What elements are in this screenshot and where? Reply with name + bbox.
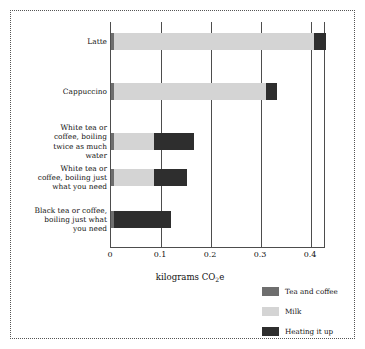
bar-segment (154, 133, 194, 150)
bar-segment (114, 83, 267, 100)
y-axis-label-line: Black tea or coffee, (7, 206, 107, 215)
x-tick-label: 0.2 (204, 250, 217, 259)
bar-segment (114, 33, 314, 50)
bar-segment (114, 211, 172, 228)
y-axis-label-line: coffee, boiling (7, 132, 107, 141)
legend-label: Heating it up (285, 327, 333, 336)
x-tick-label: 0.1 (154, 250, 167, 259)
legend-item[interactable]: Heating it up (262, 323, 360, 340)
legend-item[interactable]: Tea and coffee (262, 283, 360, 300)
y-axis-label: White tea orcoffee, boiling justwhat you… (7, 164, 107, 192)
legend-swatch (262, 307, 279, 316)
bar-segment (114, 169, 154, 186)
chart-figure: LatteCappuccinoWhite tea orcoffee, boili… (0, 0, 365, 349)
bar-segment (114, 133, 154, 150)
y-axis-label: Cappuccino (7, 87, 107, 96)
y-axis-label-line: you need (7, 224, 107, 233)
y-axis-label-line: Cappuccino (7, 87, 107, 96)
x-tick-label: 0.4 (304, 250, 317, 259)
bar-segment (314, 33, 327, 50)
legend-swatch (262, 327, 279, 336)
x-tick-label: 0 (107, 250, 112, 259)
legend-label: Milk (285, 307, 301, 316)
y-axis-label-line: coffee, boiling just (7, 173, 107, 182)
y-axis-label-line: what you need (7, 182, 107, 191)
y-axis-label-line: Latte (7, 37, 107, 46)
chart-legend: Tea and coffeeMilkHeating it up (262, 283, 360, 343)
bar-stack (111, 83, 326, 100)
y-axis-label-line: White tea or (7, 164, 107, 173)
x-axis-title: kilograms CO2e (110, 272, 270, 282)
y-axis-label: Black tea or coffee,boiling just whatyou… (7, 206, 107, 234)
legend-swatch (262, 287, 279, 296)
x-axis-title-subscript: 2 (215, 276, 219, 283)
plot-area (110, 22, 325, 248)
legend-label: Tea and coffee (285, 287, 338, 296)
x-axis-title-main: kilograms CO (156, 272, 216, 282)
x-axis-tick-labels: 00.10.20.30.4 (110, 250, 325, 264)
legend-item[interactable]: Milk (262, 303, 360, 320)
y-axis-label: White tea orcoffee, boilingtwice as much… (7, 123, 107, 160)
bar-stack (111, 211, 326, 228)
x-axis-title-tail: e (219, 272, 224, 282)
y-axis-label: Latte (7, 37, 107, 46)
y-axis-label-line: boiling just what (7, 215, 107, 224)
bar-segment (266, 83, 277, 100)
bar-stack (111, 133, 326, 150)
bar-stack (111, 33, 326, 50)
y-axis-label-line: twice as much (7, 142, 107, 151)
y-axis-category-labels: LatteCappuccinoWhite tea orcoffee, boili… (3, 22, 107, 248)
y-axis-label-line: White tea or (7, 123, 107, 132)
x-tick-label: 0.3 (254, 250, 267, 259)
y-axis-label-line: water (7, 151, 107, 160)
bar-segment (154, 169, 188, 186)
bar-stack (111, 169, 326, 186)
